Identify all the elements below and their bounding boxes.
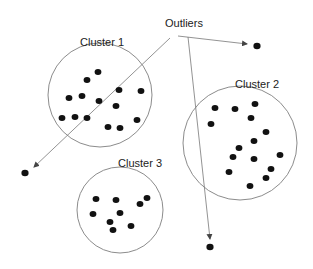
outlier-arrow <box>34 38 170 167</box>
data-point <box>226 169 233 175</box>
cluster-circles <box>48 43 297 253</box>
data-point <box>84 115 91 121</box>
data-point <box>105 124 112 130</box>
data-point <box>277 152 284 158</box>
data-point <box>230 154 237 160</box>
cluster-3-label: Cluster 3 <box>118 157 162 169</box>
data-point <box>252 101 259 107</box>
data-point <box>59 115 66 121</box>
data-point <box>144 195 151 201</box>
outlier-point <box>206 244 213 250</box>
data-point <box>95 69 102 75</box>
data-point <box>113 103 120 109</box>
data-point <box>268 166 275 172</box>
data-point <box>117 210 124 216</box>
data-point <box>113 197 120 203</box>
data-point <box>236 145 243 151</box>
outlier-point <box>21 170 28 176</box>
data-point <box>96 98 103 104</box>
data-point <box>247 183 254 189</box>
data-point <box>84 77 91 83</box>
data-point <box>212 105 219 111</box>
cluster-1-label: Cluster 1 <box>80 36 124 48</box>
data-point <box>248 115 255 121</box>
outlier-point <box>253 43 260 49</box>
data-point <box>110 227 117 233</box>
data-point <box>134 117 141 123</box>
outlier-arrow <box>188 37 210 239</box>
data-point <box>107 219 114 225</box>
data-point <box>128 223 135 229</box>
cluster-1-boundary <box>48 43 152 147</box>
data-point <box>116 87 123 93</box>
outlier-arrows <box>34 36 247 239</box>
outlier-points <box>21 43 260 250</box>
data-point <box>79 93 86 99</box>
data-point <box>137 201 144 207</box>
data-point <box>72 114 79 120</box>
data-point <box>208 121 215 127</box>
data-point <box>251 138 258 144</box>
data-point <box>138 88 145 94</box>
cluster-points <box>59 69 284 233</box>
data-point <box>251 156 258 162</box>
data-point <box>66 95 73 101</box>
cluster-2-label: Cluster 2 <box>235 78 279 90</box>
data-point <box>263 175 270 181</box>
cluster-outlier-diagram: Outliers Cluster 1Cluster 2Cluster 3 <box>0 0 313 269</box>
data-point <box>90 211 97 217</box>
outliers-label: Outliers <box>165 17 203 29</box>
data-point <box>93 196 100 202</box>
data-point <box>117 125 124 131</box>
data-point <box>232 106 239 112</box>
cluster-2-boundary <box>183 86 297 200</box>
data-point <box>263 129 270 135</box>
